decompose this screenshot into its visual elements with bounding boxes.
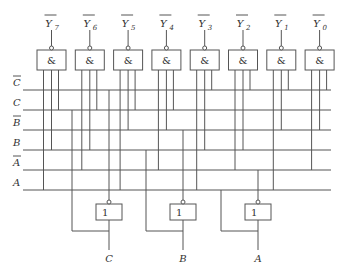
inverter-symbol: 1	[102, 207, 108, 218]
inversion-bubble	[88, 46, 92, 50]
bus-label-b-bar: B	[12, 117, 20, 128]
output-label: Y	[198, 18, 206, 29]
gate-symbol: &	[200, 55, 209, 66]
output-subscript: 0	[323, 24, 328, 32]
input-bus: CCBBAA	[12, 76, 331, 190]
output-label: Y	[122, 18, 130, 29]
nand-gate-y6: &Y6	[75, 15, 104, 170]
gate-symbol: &	[85, 55, 94, 66]
nand-gate-y4: &Y4	[152, 15, 181, 170]
inverter-symbol: 1	[176, 207, 182, 218]
inversion-bubble	[126, 46, 130, 50]
inversion-bubble	[241, 46, 245, 50]
inversion-bubble	[181, 200, 185, 204]
gate-symbol: &	[315, 55, 324, 66]
inversion-bubble	[203, 46, 207, 50]
inversion-bubble	[256, 200, 260, 204]
inversion-bubble	[279, 46, 283, 50]
gate-symbol: &	[162, 55, 171, 66]
output-subscript: 5	[131, 24, 136, 32]
inverters: 1C1B1A	[72, 90, 271, 264]
output-subscript: 3	[208, 24, 213, 32]
output-label: Y	[83, 18, 91, 29]
output-subscript: 1	[284, 24, 288, 32]
gate-symbol: &	[47, 55, 56, 66]
inversion-bubble	[318, 46, 322, 50]
decoder-diagram: CCBBAA &Y7&Y6&Y5&Y4&Y3&Y2&Y1&Y0 1C1B1A	[0, 0, 345, 271]
output-label: Y	[237, 18, 245, 29]
input-label-b: B	[178, 253, 186, 264]
output-label: Y	[160, 18, 168, 29]
bus-label-a-bar: A	[12, 157, 20, 168]
inversion-bubble	[107, 200, 111, 204]
inverter-c: 1C	[72, 90, 122, 264]
gate-symbol: &	[277, 55, 286, 66]
bus-label-c-bar: C	[13, 77, 21, 88]
inverter-symbol: 1	[251, 207, 257, 218]
gate-symbol: &	[239, 55, 248, 66]
output-label: Y	[313, 18, 321, 29]
bus-label-a: A	[12, 177, 20, 188]
input-label-c: C	[105, 253, 113, 264]
inverter-box	[96, 204, 122, 220]
output-subscript: 6	[93, 24, 98, 32]
input-label-a: A	[253, 253, 261, 264]
nand-gate-y0: &Y0	[305, 15, 334, 170]
output-label: Y	[275, 18, 283, 29]
nand-gate-y2: &Y2	[229, 15, 258, 170]
inverter-box	[245, 204, 271, 220]
output-subscript: 2	[245, 24, 251, 32]
inversion-bubble	[164, 46, 168, 50]
nand-gate-y1: &Y1	[267, 15, 296, 190]
bus-label-b: B	[12, 137, 20, 148]
bus-label-c: C	[13, 97, 21, 108]
gate-symbol: &	[124, 55, 133, 66]
nand-gate-y3: &Y3	[190, 15, 219, 190]
nand-gate-y5: &Y5	[114, 15, 143, 190]
output-subscript: 4	[168, 24, 173, 32]
nand-gates: &Y7&Y6&Y5&Y4&Y3&Y2&Y1&Y0	[37, 15, 334, 190]
output-subscript: 7	[55, 24, 60, 32]
inverter-a: 1A	[221, 170, 271, 264]
inverter-box	[170, 204, 196, 220]
inversion-bubble	[50, 46, 54, 50]
nand-gate-y7: &Y7	[37, 15, 66, 190]
output-label: Y	[45, 18, 53, 29]
